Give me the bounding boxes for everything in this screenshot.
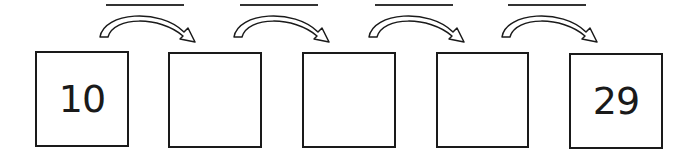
number-box-4[interactable] bbox=[436, 52, 529, 148]
box-value: 29 bbox=[593, 79, 639, 123]
step-blank-4[interactable] bbox=[508, 4, 586, 6]
box-value: 10 bbox=[59, 77, 105, 121]
number-box-5: 29 bbox=[569, 53, 663, 149]
number-box-1: 10 bbox=[35, 51, 129, 147]
step-blank-3[interactable] bbox=[375, 4, 453, 6]
number-box-2[interactable] bbox=[168, 52, 262, 148]
curved-arrow-icon bbox=[232, 10, 332, 44]
curved-arrow-icon bbox=[367, 10, 467, 44]
step-blank-1[interactable] bbox=[106, 4, 184, 6]
number-box-3[interactable] bbox=[302, 52, 396, 148]
curved-arrow-icon bbox=[98, 10, 198, 44]
curved-arrow-icon bbox=[500, 10, 600, 44]
step-blank-2[interactable] bbox=[240, 4, 318, 6]
